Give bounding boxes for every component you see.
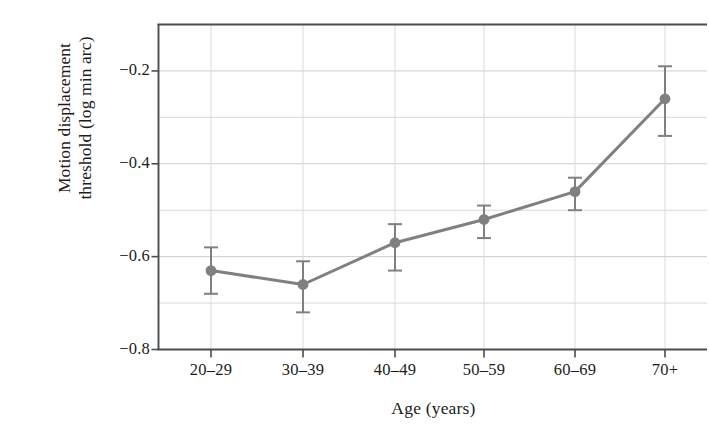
axis-lines [158, 25, 708, 350]
chart-figure: Motion displacement threshold (log min a… [0, 0, 709, 446]
plot-area [0, 0, 709, 446]
error-bars [204, 66, 672, 312]
gridlines [159, 25, 708, 350]
data-markers [206, 93, 671, 290]
axis-ticks [152, 71, 666, 358]
